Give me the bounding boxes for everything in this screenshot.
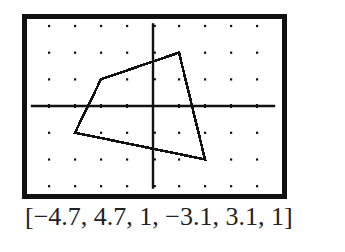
grid-dot (100, 25, 102, 27)
grid-dot (48, 78, 50, 80)
grid-dot (126, 52, 128, 54)
grid-dot (256, 132, 258, 134)
grid-dot (178, 158, 180, 160)
grid-dot (256, 158, 258, 160)
grid-dot (230, 52, 232, 54)
grid-dot (178, 185, 180, 187)
grid-dot (256, 185, 258, 187)
grid-dot (48, 185, 50, 187)
axes (31, 23, 275, 189)
grid-dot (74, 158, 76, 160)
window-settings-caption: [−4.7, 4.7, 1, −3.1, 3.1, 1] (0, 202, 345, 232)
grid-dot (74, 52, 76, 54)
grid-dot (230, 25, 232, 27)
grid-dot (126, 25, 128, 27)
grid-dot (48, 25, 50, 27)
grid-dot (256, 52, 258, 54)
grid-dot (178, 132, 180, 134)
grid-dot (230, 78, 232, 80)
grid-dot (126, 158, 128, 160)
grid-dot (126, 78, 128, 80)
grid-dot (178, 25, 180, 27)
grid-dot (74, 25, 76, 27)
grid-dot (256, 25, 258, 27)
grid-dot (230, 158, 232, 160)
grid-dot (126, 185, 128, 187)
grid-dot (204, 132, 206, 134)
grid-dot (100, 132, 102, 134)
grid-dot (74, 185, 76, 187)
grid-dot (230, 132, 232, 134)
grid-dot (204, 78, 206, 80)
grid-dot (126, 132, 128, 134)
grid-dot (178, 78, 180, 80)
grid-dot (100, 185, 102, 187)
grid-dot (48, 158, 50, 160)
grid-dot (204, 52, 206, 54)
grid-dot (256, 78, 258, 80)
grid-dot (48, 132, 50, 134)
grid-dot (48, 52, 50, 54)
grid-dot (204, 185, 206, 187)
grid-dot (74, 78, 76, 80)
grid-dot (204, 25, 206, 27)
grid-dot (230, 185, 232, 187)
grid-dot (100, 158, 102, 160)
grid-dot (100, 52, 102, 54)
